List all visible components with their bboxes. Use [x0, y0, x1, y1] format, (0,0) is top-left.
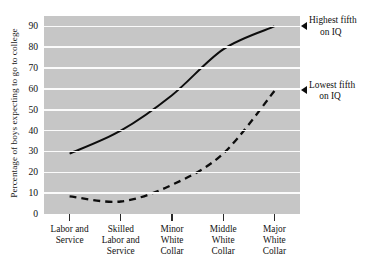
annotation-line-1: Lowest fifth	[309, 80, 355, 91]
y-tick-label: 60	[18, 83, 38, 94]
annotation-line-1: Highest fifth	[309, 15, 357, 26]
gridline	[44, 109, 300, 111]
x-tick	[223, 214, 224, 221]
x-tick	[120, 214, 121, 221]
series-annotation-1: Lowest fifthon IQ	[309, 80, 355, 103]
y-tick-label: 80	[18, 41, 38, 52]
annotation-line-2: on IQ	[309, 27, 357, 38]
annotation-pointer-0	[301, 22, 307, 30]
y-tick-label: 70	[18, 62, 38, 73]
x-category-label: MajorWhiteCollar	[237, 224, 311, 258]
gridline	[44, 172, 300, 174]
annotation-pointer-1	[301, 86, 307, 94]
x-category-label-line: Major	[237, 224, 311, 235]
gridline	[44, 26, 300, 28]
y-tick-label: 20	[18, 166, 38, 177]
series-annotation-0: Highest fifthon IQ	[309, 15, 357, 38]
plot-area	[44, 16, 300, 214]
gridline	[44, 46, 300, 48]
y-tick-label: 10	[18, 187, 38, 198]
y-tick-label: 30	[18, 145, 38, 156]
x-tick	[171, 214, 172, 221]
y-tick-label: 0	[18, 208, 38, 219]
chart-figure: Percentage of boys expecting to go to co…	[0, 0, 371, 264]
gridline	[44, 130, 300, 132]
annotation-line-2: on IQ	[309, 91, 355, 102]
gridline	[44, 192, 300, 194]
x-tick	[274, 214, 275, 221]
y-tick-label: 50	[18, 104, 38, 115]
y-tick-label: 90	[18, 20, 38, 31]
y-tick-label: 40	[18, 125, 38, 136]
series-line-1	[70, 91, 275, 202]
x-category-label-line: Collar	[237, 246, 311, 257]
x-category-label-line: White	[237, 235, 311, 246]
gridline	[44, 67, 300, 69]
gridline	[44, 151, 300, 153]
x-tick	[69, 214, 70, 221]
gridline	[44, 88, 300, 90]
